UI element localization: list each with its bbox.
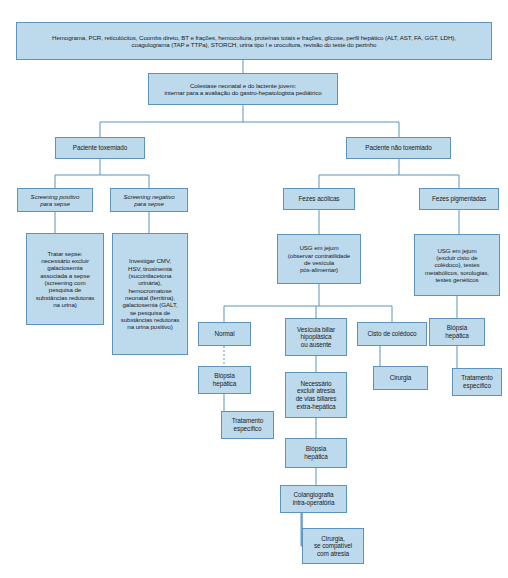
node-biopsia-hepatica-meio: Biópsia hepática <box>285 438 347 468</box>
node-tratamento-especifico-normal: Tratamento específico <box>221 411 274 439</box>
node-exames-iniciais: Hemograma, PCR, reticulócitos, Coombs di… <box>16 22 492 60</box>
node-cirurgia-atresia: Cirurgia, se compatível com atresia <box>302 528 364 564</box>
node-vesicula-biliar: Vesícula biliar hipoplásica ou ausente <box>285 318 347 356</box>
node-paciente-nao-toxemiado: Paciente não toxemiado <box>346 137 451 159</box>
node-colangiografia: Colangiografia intra-operatória <box>280 485 347 513</box>
node-investigar-cmv: Investigar CMV, HSV, tirosinemia (succin… <box>112 233 188 355</box>
node-cirurgia: Cirurgia <box>373 366 428 390</box>
node-biopsia-hepatica-normal: Biópsia hepática <box>198 366 251 394</box>
node-fezes-acolicas: Fezes acólicas <box>283 188 355 210</box>
node-normal: Normal <box>198 322 251 346</box>
node-paciente-toxemiado: Paciente toxemiado <box>55 137 145 159</box>
node-screening-positivo: Screening positivo para sepse <box>17 188 93 212</box>
node-colestase-neonatal: Colestase neonatal e do lactente jovem: … <box>148 73 338 105</box>
node-usg-jejum-contratilidade: USG em jejum (observar contratilidade de… <box>277 234 361 284</box>
node-biopsia-hepatica-direita: Biópsia hepática <box>429 318 485 346</box>
node-usg-jejum-cisto: USG em jejum (excluir cisto de colédoco)… <box>414 234 500 296</box>
node-tratar-sepse: Tratar sepse: necessário excluir galacto… <box>26 233 104 325</box>
node-screening-negativo: Screening negativo para sepse <box>110 188 188 212</box>
flowchart-canvas: Hemograma, PCR, reticulócitos, Coombs di… <box>0 0 508 578</box>
node-tratamento-especifico-direita: Tratamento específico <box>452 368 502 396</box>
node-necessario-excluir-atresia: Necessário excluir atresia de vias bilia… <box>285 372 347 418</box>
node-fezes-pigmentadas: Fezes pigmentadas <box>419 188 499 210</box>
node-cisto-coledoco: Cisto de colédoco <box>357 322 427 346</box>
